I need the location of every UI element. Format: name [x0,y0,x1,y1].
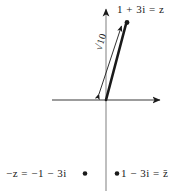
point-marker-negative-z [83,171,88,176]
label-negative-z-text: −z = −1 − 3i [6,167,67,179]
point-marker-z [125,20,130,25]
complex-plane-figure: 1 + 3i = z √10 −z = −1 − 3i 1 − 3i = z̄ … [0,0,195,196]
label-negative-z: −z = −1 − 3i [6,167,67,179]
label-point-z: 1 + 3i = z [117,3,164,15]
label-conjugate-z: 1 − 3i = z̄ [121,167,168,179]
vector-z [106,24,126,100]
label-conjugate-z-text: 1 − 3i = z̄ [121,167,168,179]
point-marker-conjugate-z [115,171,120,176]
label-point-z-text: 1 + 3i = z [117,3,164,15]
